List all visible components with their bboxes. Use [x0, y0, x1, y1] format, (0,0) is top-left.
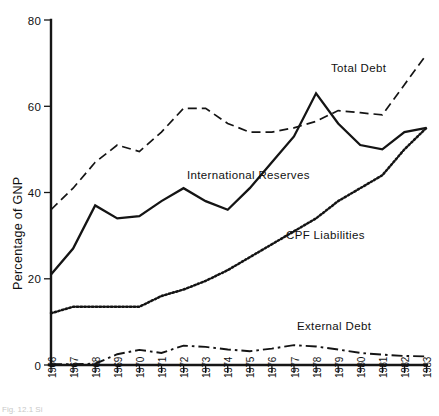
annotation-international-reserves: International Reserves — [187, 169, 310, 181]
figure-container: 80 60 40 20 0 Percentage of GNP — [0, 0, 439, 416]
xtick-label-1980: 1980 — [356, 356, 367, 378]
ytick-label-0: 0 — [34, 360, 41, 372]
xtick-label-1969: 1969 — [113, 356, 124, 378]
ytick-label-40: 40 — [28, 187, 41, 199]
series-line-international-reserves — [51, 93, 427, 274]
series-line-cpf-liabilities — [51, 128, 427, 313]
xtick-label-1973: 1973 — [201, 356, 212, 378]
xtick-label-1975: 1975 — [245, 356, 256, 378]
annotation-total-debt: Total Debt — [331, 62, 387, 74]
xtick-label-1982: 1982 — [400, 356, 411, 378]
xtick-label-1978: 1978 — [312, 356, 323, 378]
xtick-label-1981: 1981 — [378, 356, 389, 378]
xtick-label-1967: 1967 — [69, 356, 80, 378]
xtick-label-1979: 1979 — [334, 356, 345, 378]
ytick-label-80: 80 — [28, 15, 41, 27]
annotation-external-debt: External Debt — [297, 320, 372, 332]
xtick-label-1966: 1966 — [47, 356, 58, 378]
series-line-total-debt — [51, 55, 427, 210]
y-axis-title: Percentage of GNP — [11, 177, 25, 291]
xtick-label-1983: 1983 — [422, 356, 433, 378]
xtick-label-1974: 1974 — [223, 356, 234, 378]
annotation-cpf-liabilities: CPF Liabilities — [286, 229, 365, 241]
xtick-label-1972: 1972 — [179, 356, 190, 378]
xtick-label-1970: 1970 — [135, 356, 146, 378]
y-axis-tick-labels: 80 60 40 20 0 — [28, 15, 41, 372]
figure-caption: Fig. 12.1 Si — [2, 405, 43, 414]
xtick-label-1976: 1976 — [267, 356, 278, 378]
x-axis-tick-labels: 1966 1967 1968 1969 1970 1971 1972 1973 … — [47, 356, 434, 378]
ytick-label-20: 20 — [28, 273, 41, 285]
series-line-external-debt — [51, 345, 427, 364]
line-chart: 80 60 40 20 0 Percentage of GNP — [0, 0, 439, 416]
xtick-label-1977: 1977 — [290, 356, 301, 378]
ytick-label-60: 60 — [28, 101, 41, 113]
xtick-label-1971: 1971 — [157, 356, 168, 378]
series-group — [51, 55, 427, 365]
series-annotations: Total Debt International Reserves CPF Li… — [187, 62, 387, 332]
xtick-label-1968: 1968 — [91, 356, 102, 378]
